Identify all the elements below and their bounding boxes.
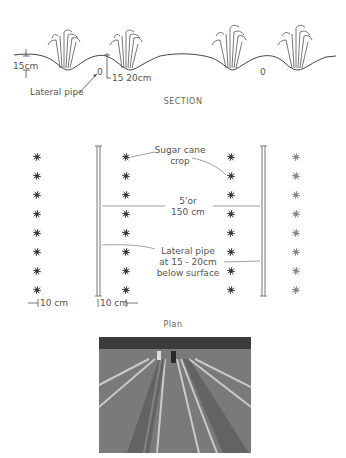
plant-icon [227, 191, 235, 199]
plant-icon [122, 248, 130, 256]
plant-icon [292, 248, 300, 256]
plant-icon [122, 172, 130, 180]
plant-icon [33, 191, 41, 199]
spacing-label-line2: 150 cm [171, 207, 205, 217]
plant-icon [122, 267, 130, 275]
crop-label-line1: Sugar cane [155, 145, 206, 155]
pipe-label-line2: at 15 - 20cm [159, 257, 217, 267]
plant-icon [33, 229, 41, 237]
plant-icon [122, 229, 130, 237]
spacing-label-line1: 5'or [179, 196, 196, 206]
plant-icon [33, 286, 41, 294]
plant-icon [292, 267, 300, 275]
field-photo [99, 337, 251, 453]
plant-icon [292, 210, 300, 218]
plant-icon [33, 172, 41, 180]
crop-label-line2: crop [170, 156, 190, 166]
plant-icon [122, 191, 130, 199]
field-photo-art [99, 337, 251, 453]
pipe-label-line3: below surface [157, 268, 220, 278]
plant-icon [227, 172, 235, 180]
plant-icon [227, 286, 235, 294]
plant-icon [292, 191, 300, 199]
plant-icon [227, 153, 235, 161]
plant-icon [33, 210, 41, 218]
plant-icon [122, 286, 130, 294]
plant-icon [227, 229, 235, 237]
plan-caption: Plan [163, 320, 182, 329]
plant-icon [122, 210, 130, 218]
plant-icon [33, 153, 41, 161]
plant-icon [227, 248, 235, 256]
plant-icon [227, 267, 235, 275]
pipe-label-line1: Lateral pipe [161, 246, 215, 256]
plant-icon [227, 210, 235, 218]
plant-icon [292, 172, 300, 180]
plant-icon [292, 153, 300, 161]
offset-label-right: 10 cm [100, 298, 128, 308]
lateral-pipe-left [95, 146, 102, 296]
plant-icon [33, 267, 41, 275]
plant-icon [292, 229, 300, 237]
plant-icon [122, 153, 130, 161]
lateral-pipe-right [260, 146, 267, 296]
plant-icon [33, 248, 41, 256]
offset-label-left: 10 cm [40, 298, 68, 308]
plant-icon [292, 286, 300, 294]
